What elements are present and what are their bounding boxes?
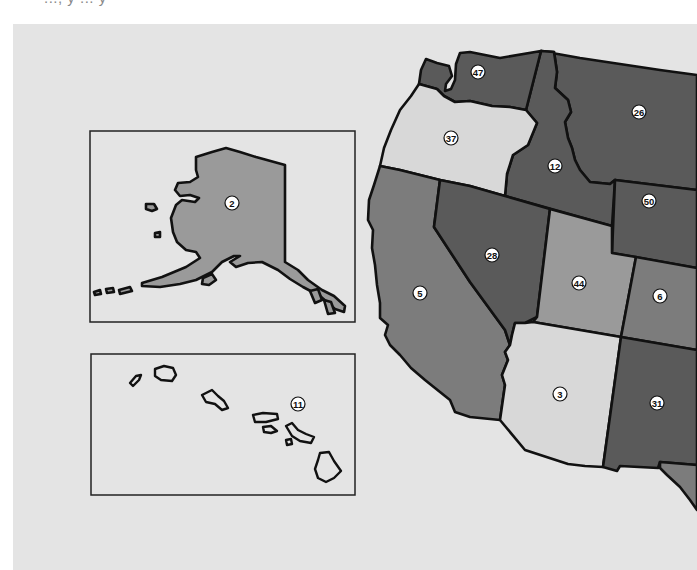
wyoming-rank-badge: 50 (642, 194, 656, 208)
svg-text:26: 26 (634, 107, 645, 118)
hawaii-island-kauai (155, 366, 176, 381)
cut-off-caption: ..., y ... y (44, 0, 107, 6)
hawaii-rank-badge: 11 (291, 397, 305, 411)
svg-text:6: 6 (657, 291, 662, 302)
svg-text:37: 37 (446, 133, 457, 144)
svg-text:2: 2 (229, 198, 234, 209)
alaska-inset: 2 (90, 131, 355, 322)
svg-text:31: 31 (652, 398, 663, 409)
western-us-map: 2 11 (13, 24, 697, 570)
svg-text:50: 50 (644, 196, 655, 207)
svg-text:5: 5 (417, 288, 423, 299)
washington-rank-badge: 47 (471, 65, 485, 79)
hawaii-island-lanai (263, 426, 277, 433)
state-alaska[interactable] (142, 148, 345, 312)
alaska-nunivak-island (155, 232, 160, 237)
montana-rank-badge: 26 (632, 105, 646, 119)
state-texas[interactable] (660, 462, 697, 510)
utah-rank-badge: 44 (572, 276, 586, 290)
hawaii-island-oahu (202, 390, 228, 410)
new-mexico-rank-badge: 31 (650, 396, 664, 410)
svg-text:44: 44 (574, 278, 585, 289)
nevada-rank-badge: 28 (485, 248, 499, 262)
svg-text:3: 3 (557, 389, 562, 400)
arizona-rank-badge: 3 (553, 387, 567, 401)
map-canvas: 2 11 (13, 24, 697, 570)
california-rank-badge: 5 (413, 286, 427, 300)
hawaii-island-kahoolawe (286, 439, 292, 445)
contiguous-states: 47 37 12 26 50 28 (368, 51, 697, 510)
hawaii-island-niihau (130, 375, 141, 386)
idaho-rank-badge: 12 (548, 159, 562, 173)
aleutian-island-2 (106, 288, 114, 293)
aleutian-island-3 (119, 287, 132, 294)
svg-text:12: 12 (550, 161, 561, 172)
top-caption-strip: ..., y ... y (0, 0, 697, 24)
aleutian-island-1 (94, 290, 101, 295)
svg-text:47: 47 (473, 67, 484, 78)
alaska-st-lawrence-island (146, 204, 157, 211)
alaska-rank-badge: 2 (225, 196, 239, 210)
svg-text:28: 28 (487, 250, 498, 261)
hawaii-island-big-island (315, 452, 341, 482)
oregon-rank-badge: 37 (444, 131, 458, 145)
hawaii-inset: 11 (91, 354, 355, 495)
colorado-rank-badge: 6 (653, 289, 667, 303)
svg-text:11: 11 (293, 399, 304, 410)
hawaii-island-molokai (253, 413, 278, 422)
